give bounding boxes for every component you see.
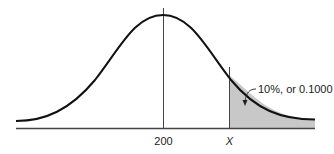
tail-area-label: 10%, or 0.1000 <box>258 83 333 95</box>
normal-curve-diagram: 10%, or 0.1000 200 X <box>0 0 334 154</box>
cutoff-label: X <box>225 135 234 147</box>
bell-curve <box>16 15 315 121</box>
mean-label: 200 <box>154 135 172 147</box>
